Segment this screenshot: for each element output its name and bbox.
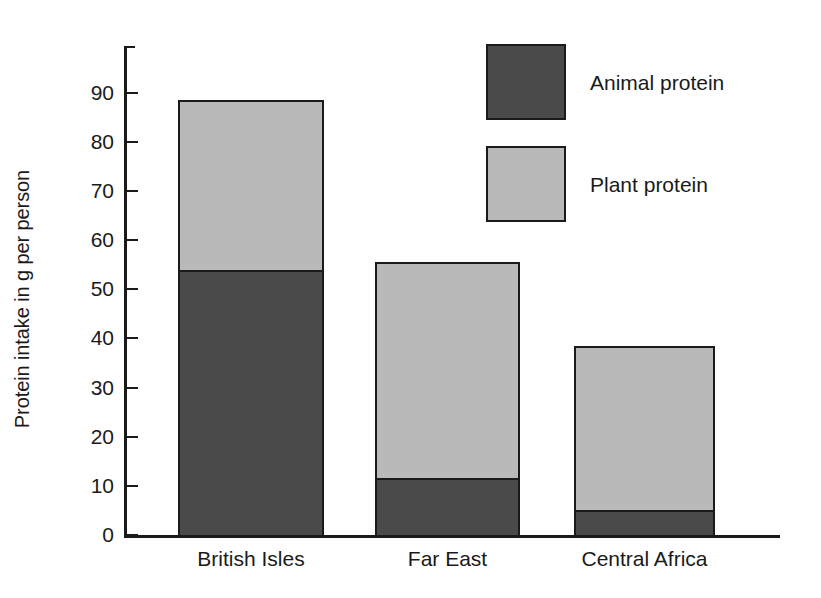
y-axis-tick	[127, 92, 138, 94]
x-axis-category-label: Central Africa	[504, 548, 785, 569]
y-axis-tick	[127, 288, 138, 290]
y-axis-tick-label: 40	[68, 327, 114, 348]
y-axis-tick-label: 10	[68, 475, 114, 496]
bar-segment-animal-protein[interactable]	[574, 510, 715, 537]
y-axis-tick-label: 20	[68, 426, 114, 447]
bar-segment-animal-protein[interactable]	[375, 478, 520, 537]
legend-item[interactable]: Plant protein	[486, 146, 708, 222]
y-axis-tick-label: 90	[68, 82, 114, 103]
bar-segment-plant-protein[interactable]	[375, 262, 520, 480]
y-axis-tick-label: 30	[68, 377, 114, 398]
bar-segment-plant-protein[interactable]	[574, 346, 715, 513]
legend-swatch-plant-protein	[486, 146, 566, 222]
legend-label: Plant protein	[590, 174, 708, 195]
y-axis-tick	[127, 387, 138, 389]
protein-intake-stacked-bar-chart: Protein intake in g per person 010203040…	[0, 0, 821, 598]
y-axis-tick	[127, 436, 138, 438]
bar-segment-plant-protein[interactable]	[178, 100, 324, 272]
bar-stack[interactable]	[574, 346, 715, 537]
y-axis-tick-label: 80	[68, 131, 114, 152]
y-axis-tick	[127, 190, 138, 192]
y-axis-top-cap	[124, 46, 135, 48]
y-axis-tick	[127, 534, 138, 536]
bar-stack[interactable]	[178, 100, 324, 537]
legend-item[interactable]: Animal protein	[486, 44, 724, 120]
legend-label: Animal protein	[590, 72, 724, 93]
bar-segment-animal-protein[interactable]	[178, 270, 324, 538]
y-axis-title: Protein intake in g per person	[0, 0, 44, 598]
bar-stack[interactable]	[375, 262, 520, 537]
y-axis-tick	[127, 485, 138, 487]
legend-swatch-animal-protein	[486, 44, 566, 120]
y-axis-tick	[127, 337, 138, 339]
y-axis-tick-label: 50	[68, 278, 114, 299]
y-axis-line	[124, 46, 127, 537]
y-axis-tick-label: 70	[68, 180, 114, 201]
y-axis-tick	[127, 239, 138, 241]
y-axis-tick	[127, 141, 138, 143]
y-axis-tick-label: 60	[68, 229, 114, 250]
y-axis-tick-label: 0	[68, 524, 114, 545]
